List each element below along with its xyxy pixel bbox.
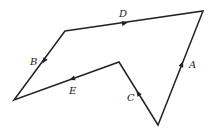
label-a: A bbox=[188, 59, 196, 70]
edge-a-arrow-icon bbox=[179, 60, 186, 67]
label-b: B bbox=[29, 56, 37, 67]
polygon-outline bbox=[14, 11, 203, 125]
label-d: D bbox=[118, 8, 127, 19]
edge-d-arrow-icon bbox=[122, 20, 129, 26]
label-c: C bbox=[127, 92, 135, 103]
polygon-diagram: D A C E B bbox=[0, 0, 210, 130]
edge-e-arrow-icon bbox=[68, 76, 75, 83]
label-e: E bbox=[68, 85, 77, 96]
